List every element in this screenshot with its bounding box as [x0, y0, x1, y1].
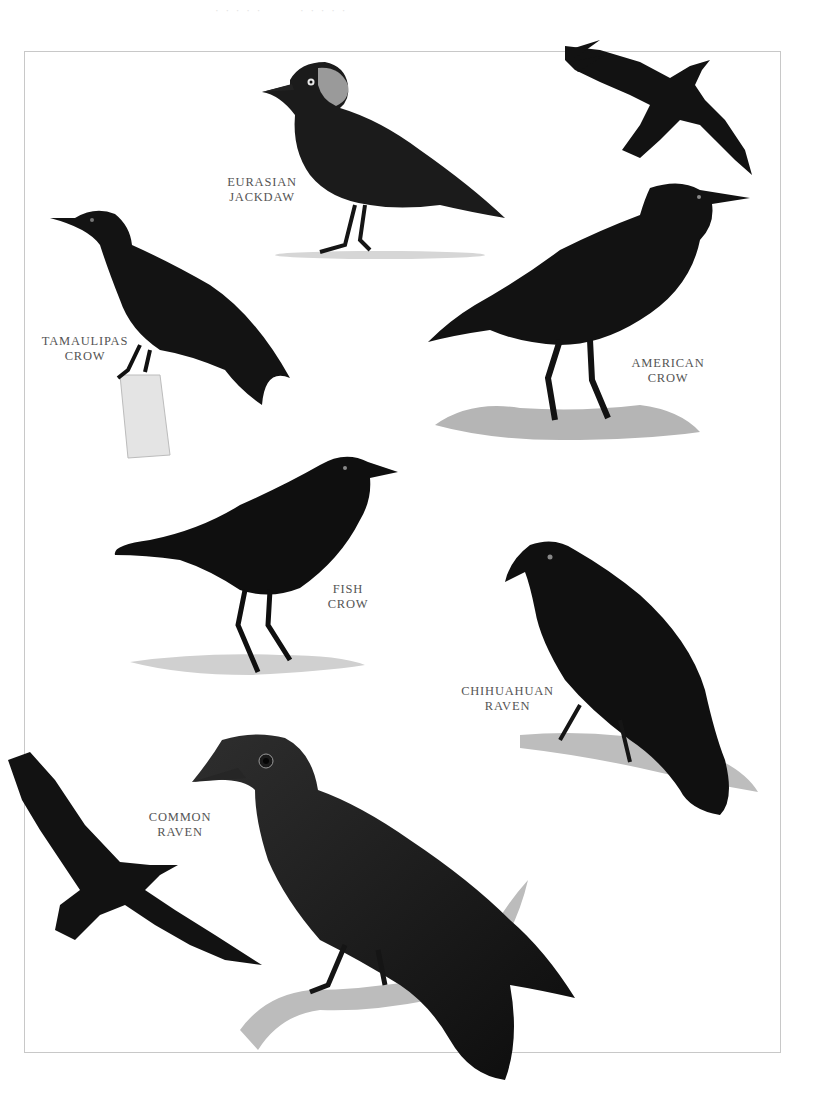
american-crow-illustration: [428, 183, 750, 440]
label-line: COMMON: [130, 810, 230, 825]
label-line: CROW: [30, 349, 140, 364]
illustration-plate: [0, 0, 823, 1101]
label-line: AMERICAN: [618, 356, 718, 371]
species-label-fish-crow: FISH CROW: [313, 582, 383, 612]
common-raven-illustration: [192, 734, 575, 1080]
common-raven-flying-illustration: [8, 752, 262, 965]
label-line: FISH: [313, 582, 383, 597]
chihuahuan-raven-illustration: [505, 541, 758, 815]
label-line: EURASIAN: [212, 175, 312, 190]
label-line: CHIHUAHUAN: [450, 684, 565, 699]
label-line: RAVEN: [450, 699, 565, 714]
american-crow-flying-illustration: [565, 40, 752, 175]
species-label-tamaulipas-crow: TAMAULIPAS CROW: [30, 334, 140, 364]
species-label-chihuahuan-raven: CHIHUAHUAN RAVEN: [450, 684, 565, 714]
species-label-american-crow: AMERICAN CROW: [618, 356, 718, 386]
label-line: JACKDAW: [212, 190, 312, 205]
label-line: CROW: [618, 371, 718, 386]
species-label-common-raven: COMMON RAVEN: [130, 810, 230, 840]
species-label-eurasian-jackdaw: EURASIAN JACKDAW: [212, 175, 312, 205]
label-line: TAMAULIPAS: [30, 334, 140, 349]
label-line: CROW: [313, 597, 383, 612]
label-line: RAVEN: [130, 825, 230, 840]
fish-crow-illustration: [115, 457, 398, 675]
eurasian-jackdaw-illustration: [262, 62, 505, 259]
